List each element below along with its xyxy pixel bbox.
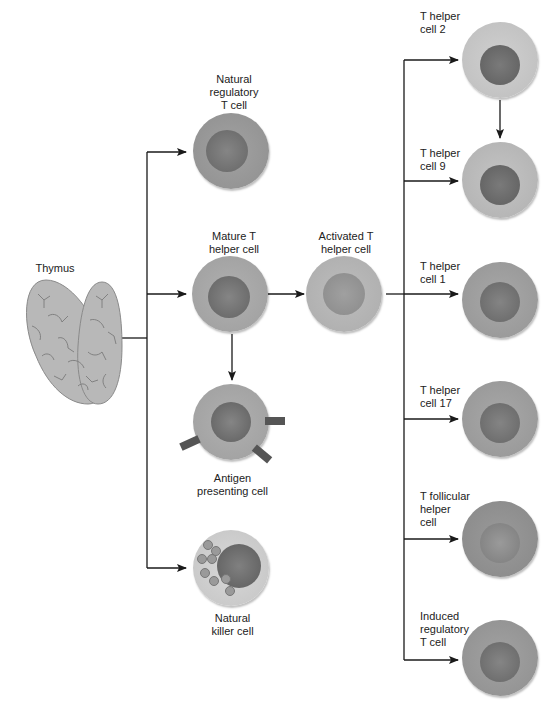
granule	[200, 568, 210, 578]
tfh-cell	[462, 501, 538, 577]
mature-t-helper-cell	[192, 256, 268, 332]
nucleus	[480, 165, 520, 205]
nucleus	[480, 403, 520, 443]
granule	[209, 576, 219, 586]
activated-t-helper-cell	[306, 256, 382, 332]
nucleus	[323, 273, 365, 315]
natural-regulatory-t-cell-label: Natural regulatory T cell	[196, 73, 272, 112]
nucleus	[211, 402, 251, 442]
nucleus	[206, 130, 248, 172]
th2-cell	[462, 22, 538, 98]
natural-killer-cell	[193, 530, 269, 606]
thymus-label: Thymus	[20, 262, 90, 275]
th2-label: T helper cell 2	[420, 10, 480, 36]
antigen-presenting-cell-label: Antigen presenting cell	[185, 472, 280, 498]
granule	[225, 586, 235, 596]
granule	[197, 554, 207, 564]
itreg-cell	[462, 620, 538, 696]
natural-regulatory-t-cell	[193, 113, 269, 189]
thymus-illustration	[18, 276, 126, 408]
activated-t-helper-cell-label: Activated T helper cell	[306, 230, 386, 256]
nucleus	[480, 523, 520, 563]
mature-t-helper-cell-label: Mature T helper cell	[196, 230, 272, 256]
nucleus	[480, 282, 520, 322]
th17-cell	[462, 381, 538, 457]
receptor-right	[265, 417, 285, 425]
granule	[221, 574, 231, 584]
natural-killer-cell-label: Natural killer cell	[195, 612, 270, 638]
granule	[211, 546, 221, 556]
nucleus	[480, 642, 520, 682]
nucleus	[480, 45, 520, 85]
th9-cell	[462, 142, 538, 218]
nucleus	[208, 276, 250, 318]
th1-cell	[462, 262, 538, 338]
